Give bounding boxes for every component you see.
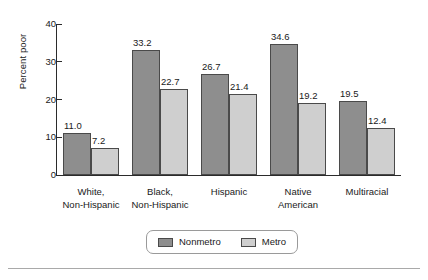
bottom-divider — [8, 268, 420, 269]
bar-value-label: 22.7 — [161, 76, 180, 87]
bar-metro — [160, 89, 188, 175]
bar-metro — [91, 148, 119, 175]
bar-value-label: 34.6 — [271, 31, 290, 42]
bar-nonmetro — [339, 101, 367, 175]
bar-metro — [229, 94, 257, 175]
plot-area: 11.07.233.222.726.721.434.619.219.512.4 — [56, 24, 401, 175]
bar-group: 33.222.7 — [132, 24, 188, 175]
bar-group: 19.512.4 — [339, 24, 395, 175]
bar-value-label: 7.2 — [92, 135, 105, 146]
bar-value-label: 11.0 — [64, 120, 82, 131]
y-axis-tick-label: 30 — [30, 57, 56, 67]
bar-value-label: 33.2 — [133, 37, 152, 48]
bar-value-label: 26.7 — [202, 61, 221, 72]
bar-nonmetro — [270, 44, 298, 175]
chart-legend: NonmetroMetro — [146, 230, 298, 254]
y-axis-tick-label: 10 — [30, 132, 56, 142]
y-axis-tick-label: 20 — [30, 95, 56, 105]
y-axis-tick-label: 40 — [30, 19, 56, 29]
legend-swatch-icon — [241, 238, 256, 247]
bar-value-label: 12.4 — [368, 115, 387, 126]
bar-group: 11.07.2 — [63, 24, 119, 175]
legend-item-nonmetro[interactable]: Nonmetro — [158, 237, 221, 247]
bar-value-label: 19.5 — [340, 88, 359, 99]
bar-metro — [298, 103, 326, 175]
bar-value-label: 21.4 — [230, 81, 249, 92]
legend-label: Metro — [262, 237, 286, 247]
bar-group: 26.721.4 — [201, 24, 257, 175]
bar-group: 34.619.2 — [270, 24, 326, 175]
legend-item-metro[interactable]: Metro — [241, 237, 286, 247]
x-axis-line — [56, 175, 401, 176]
bar-nonmetro — [132, 50, 160, 175]
bar-nonmetro — [63, 133, 91, 175]
bar-metro — [367, 128, 395, 175]
x-axis-label: Multiracial — [323, 186, 411, 199]
y-axis-tick-label: 0 — [30, 170, 56, 180]
bar-chart: Percent poor 010203040 11.07.233.222.726… — [0, 0, 428, 280]
legend-label: Nonmetro — [179, 237, 221, 247]
bar-value-label: 19.2 — [299, 90, 318, 101]
bar-nonmetro — [201, 74, 229, 175]
legend-swatch-icon — [158, 238, 173, 247]
